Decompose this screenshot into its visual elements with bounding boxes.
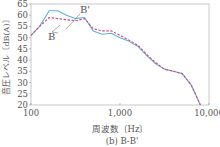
svg-text:B': B' xyxy=(80,4,90,15)
x-tick-label: 1,000 xyxy=(108,108,132,118)
x-axis-label: 周波数〔Hz〕 xyxy=(92,124,149,134)
x-tick-label: 100 xyxy=(23,108,39,118)
y-tick-label: 25 xyxy=(17,89,28,99)
svg-text:B: B xyxy=(48,31,55,42)
y-tick-label: 40 xyxy=(17,55,28,65)
y-tick-label: 60 xyxy=(17,10,28,20)
y-axis-ticks: 20253035404550556065 xyxy=(17,0,31,110)
series-line-b-prime xyxy=(31,11,200,105)
y-axis-label: 音圧レベル〔dB(A)〕 xyxy=(1,15,11,94)
annotation-b: B xyxy=(48,25,60,42)
y-tick-label: 50 xyxy=(17,33,28,43)
y-tick-label: 30 xyxy=(17,78,28,88)
series-line-b xyxy=(31,18,200,106)
spl-frequency-chart: 20253035404550556065 1001,00010,000 B' B… xyxy=(0,0,220,147)
series-lines xyxy=(31,11,200,105)
x-tick-label: 10,000 xyxy=(194,108,220,118)
y-tick-label: 55 xyxy=(17,21,28,31)
y-tick-label: 35 xyxy=(17,66,28,76)
y-tick-label: 65 xyxy=(17,0,28,9)
plot-frame xyxy=(31,4,209,105)
y-tick-label: 45 xyxy=(17,44,28,54)
chart-caption: (b) B-B' xyxy=(106,136,139,146)
